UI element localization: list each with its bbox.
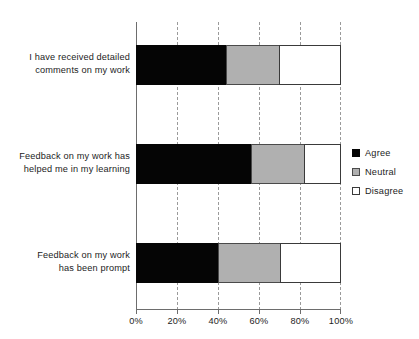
xtick-label-80: 80% [280, 316, 320, 326]
xtick-label-40: 40% [198, 316, 238, 326]
tick-0 [136, 309, 137, 314]
bar-segment-agree-2 [136, 243, 218, 283]
xtick-label-0: 0% [116, 316, 156, 326]
category-label-1: Feedback on my work has helped me in my … [4, 150, 130, 175]
legend-label-agree: Agree [365, 148, 391, 158]
bar-segment-disagree-0 [279, 45, 341, 85]
bar-segment-neutral-2 [218, 243, 280, 283]
bar-row-1 [136, 144, 341, 184]
category-label-0: I have received detailed comments on my … [4, 51, 130, 76]
tick-20 [177, 309, 178, 314]
legend-item-neutral: Neutral [352, 162, 403, 181]
legend-swatch-neutral-icon [352, 168, 360, 176]
legend-label-disagree: Disagree [365, 186, 403, 196]
tick-top-0 [136, 22, 137, 27]
legend-item-agree: Agree [352, 143, 403, 162]
legend-item-disagree: Disagree [352, 181, 403, 200]
legend-swatch-agree-icon [352, 149, 360, 157]
bar-segment-agree-1 [136, 144, 251, 184]
bar-segment-neutral-1 [251, 144, 304, 184]
bar-segment-agree-0 [136, 45, 226, 85]
bar-row-0 [136, 45, 341, 85]
bar-row-2 [136, 243, 341, 283]
plot-area [136, 22, 341, 310]
category-label-2: Feedback on my work has been prompt [4, 249, 130, 274]
legend: Agree Neutral Disagree [352, 143, 403, 200]
bar-segment-disagree-2 [280, 243, 342, 283]
legend-swatch-disagree-icon [352, 187, 360, 195]
stacked-bar-chart: I have received detailed comments on my … [0, 0, 419, 339]
tick-80 [300, 309, 301, 314]
tick-40 [218, 309, 219, 314]
legend-label-neutral: Neutral [365, 167, 396, 177]
x-axis-line [136, 309, 341, 310]
xtick-label-20: 20% [157, 316, 197, 326]
xtick-label-60: 60% [239, 316, 279, 326]
bar-segment-neutral-0 [226, 45, 279, 85]
bar-segment-disagree-1 [304, 144, 341, 184]
tick-100 [340, 309, 341, 314]
tick-60 [259, 309, 260, 314]
xtick-label-100: 100% [321, 316, 361, 326]
